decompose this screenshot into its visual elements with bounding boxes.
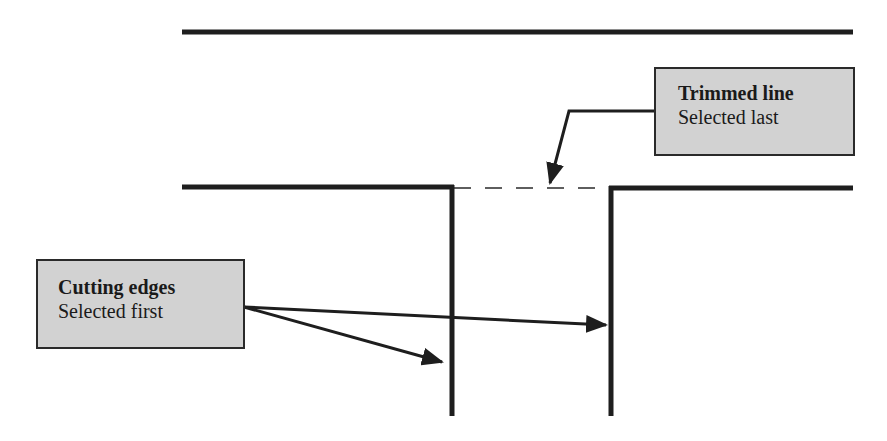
- trimmed-line-callout: Trimmed line Selected last: [654, 67, 855, 156]
- cutting-edges-callout-subtitle: Selected first: [58, 299, 243, 323]
- trimmed-line-callout-subtitle: Selected last: [678, 105, 853, 129]
- cutting-edges-callout-title: Cutting edges: [58, 275, 243, 299]
- trimmed-callout-arrow: [550, 111, 654, 183]
- cutting-edges-callout: Cutting edges Selected first: [36, 259, 245, 349]
- trimmed-line-callout-title: Trimmed line: [678, 81, 853, 105]
